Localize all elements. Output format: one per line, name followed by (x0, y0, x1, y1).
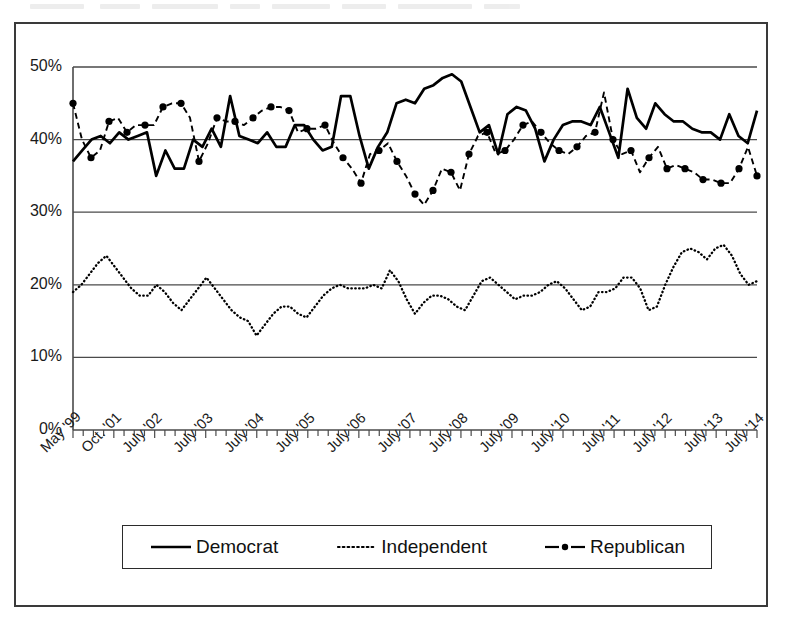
data-point-marker (555, 147, 562, 154)
data-point-marker (231, 118, 238, 125)
data-point-marker (195, 158, 202, 165)
data-point-marker (375, 147, 382, 154)
data-point-marker (87, 154, 94, 161)
series-line-independent (73, 245, 757, 336)
data-point-marker (645, 154, 652, 161)
data-point-marker (213, 114, 220, 121)
legend-key-republican (543, 539, 587, 555)
data-point-marker (609, 136, 616, 143)
legend-item-democrat[interactable]: Democrat (149, 536, 278, 558)
data-point-marker (519, 121, 526, 128)
legend-key-independent (334, 539, 378, 555)
data-point-marker (285, 107, 292, 114)
data-point-marker (177, 100, 184, 107)
data-point-marker (357, 180, 364, 187)
data-point-marker (69, 100, 76, 107)
y-tick-label: 20% (16, 275, 62, 293)
data-point-marker (123, 129, 130, 136)
data-point-marker (465, 151, 472, 158)
data-point-marker (303, 125, 310, 132)
data-point-marker (591, 129, 598, 136)
data-point-marker (249, 114, 256, 121)
data-point-marker (681, 165, 688, 172)
chart-page: 0%10%20%30%40%50% May '99Oct. '01July '0… (0, 0, 793, 621)
data-point-marker (267, 103, 274, 110)
legend-key-democrat (149, 539, 193, 555)
chart-legend: Democrat Independent Republican (122, 525, 712, 569)
gridlines (73, 67, 757, 430)
legend-label-independent: Independent (381, 536, 487, 558)
y-tick-label: 10% (16, 347, 62, 365)
data-point-marker (663, 165, 670, 172)
data-point-marker (429, 187, 436, 194)
y-tick-label: 40% (16, 130, 62, 148)
data-point-marker (339, 154, 346, 161)
legend-label-republican: Republican (590, 536, 685, 558)
data-point-marker (411, 190, 418, 197)
legend-item-independent[interactable]: Independent (334, 536, 487, 558)
data-point-marker (321, 121, 328, 128)
legend-item-republican[interactable]: Republican (543, 536, 685, 558)
data-point-marker (483, 129, 490, 136)
data-point-marker (627, 147, 634, 154)
data-point-marker (501, 147, 508, 154)
data-point-marker (141, 121, 148, 128)
data-point-marker (735, 165, 742, 172)
data-point-marker (447, 169, 454, 176)
legend-label-democrat: Democrat (196, 536, 278, 558)
y-tick-label: 50% (16, 57, 62, 75)
data-point-marker (393, 158, 400, 165)
data-point-marker (537, 129, 544, 136)
data-point-marker (717, 180, 724, 187)
series-line-democrat (73, 74, 757, 176)
data-point-marker (699, 176, 706, 183)
data-point-marker (753, 172, 760, 179)
data-point-marker (159, 103, 166, 110)
data-point-marker (573, 143, 580, 150)
data-point-marker (105, 118, 112, 125)
data-series-layer (69, 74, 760, 335)
y-tick-label: 30% (16, 202, 62, 220)
